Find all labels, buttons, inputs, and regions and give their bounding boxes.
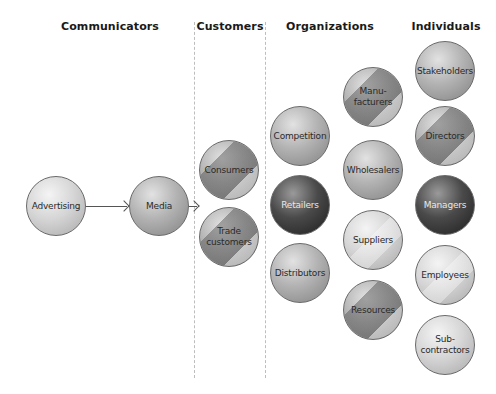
node-label: Competition bbox=[274, 131, 327, 142]
node-label: Consumers bbox=[205, 165, 254, 176]
node-label: Resources bbox=[351, 305, 395, 316]
node-consumers: Consumers bbox=[199, 140, 259, 200]
node-label: Employees bbox=[421, 270, 468, 281]
node-advertising: Advertising bbox=[26, 176, 86, 236]
node-trade-customers: Trade customers bbox=[199, 207, 259, 267]
divider-customers-organizations bbox=[265, 22, 266, 378]
node-wholesalers: Wholesalers bbox=[343, 140, 403, 200]
node-label: Advertising bbox=[32, 201, 81, 212]
node-label: Manu- facturers bbox=[354, 86, 393, 108]
arrow-media-to-customers bbox=[189, 206, 197, 207]
node-label: Managers bbox=[424, 200, 467, 211]
arrow-advertising-to-media bbox=[86, 206, 127, 207]
node-subcontractors: Sub- contractors bbox=[415, 315, 475, 375]
node-label: Suppliers bbox=[353, 235, 393, 246]
node-label: Wholesalers bbox=[347, 165, 400, 176]
node-retailers: Retailers bbox=[270, 175, 330, 235]
node-label: Media bbox=[146, 201, 172, 212]
node-label: Stakeholders bbox=[417, 66, 473, 77]
node-distributors: Distributors bbox=[270, 243, 330, 303]
node-employees: Employees bbox=[415, 245, 475, 305]
node-label: Distributors bbox=[275, 268, 325, 279]
node-manufacturers: Manu- facturers bbox=[343, 67, 403, 127]
heading-customers: Customers bbox=[196, 20, 263, 33]
heading-individuals: Individuals bbox=[411, 20, 480, 33]
node-managers: Managers bbox=[415, 175, 475, 235]
heading-organizations: Organizations bbox=[286, 20, 374, 33]
node-directors: Directors bbox=[415, 106, 475, 166]
node-suppliers: Suppliers bbox=[343, 210, 403, 270]
node-label: Sub- contractors bbox=[420, 334, 469, 356]
node-label: Directors bbox=[425, 131, 464, 142]
node-stakeholders: Stakeholders bbox=[415, 41, 475, 101]
node-resources: Resources bbox=[343, 280, 403, 340]
node-competition: Competition bbox=[270, 106, 330, 166]
node-media: Media bbox=[129, 176, 189, 236]
node-label: Retailers bbox=[281, 200, 319, 211]
heading-communicators: Communicators bbox=[61, 20, 159, 33]
node-label: Trade customers bbox=[206, 226, 251, 248]
